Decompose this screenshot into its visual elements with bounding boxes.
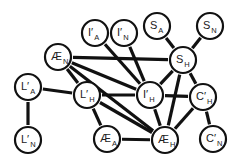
node-CpH: C′H: [190, 84, 216, 110]
node-SN: SN: [197, 13, 223, 39]
edge-LpA-LpH: [43, 89, 72, 93]
edge-IpH-AEH: [155, 109, 161, 126]
edge-IpH-SH: [160, 71, 172, 84]
node-CpN: C′N: [200, 126, 226, 152]
node-AEH: ÆH: [152, 127, 178, 153]
edge-SN-SH: [192, 38, 200, 49]
edge-AEN-SH: [73, 57, 168, 59]
node-AEA: ÆA: [94, 126, 120, 152]
edge-CpH-CpN: [206, 112, 209, 125]
node-IpN: I′N: [111, 20, 137, 46]
edge-SA-SH: [166, 38, 174, 48]
node-SH: SH: [170, 47, 196, 73]
node-LpA: L′A: [15, 74, 41, 100]
node-LpH: L′H: [74, 82, 100, 108]
node-AEN: ÆN: [45, 44, 71, 70]
node-LpN: L′N: [15, 127, 41, 153]
edge-SH-CpH: [190, 73, 196, 84]
node-IpH: I′H: [137, 82, 163, 108]
node-IpA: I′A: [82, 20, 108, 46]
edge-CpH-AEH: [175, 108, 193, 129]
node-graph-diagram: I′AI′NSASNÆNSHL′AL′HI′HC′HL′NÆAÆHC′N: [0, 0, 242, 162]
edge-SH-AEH: [168, 75, 179, 126]
edge-LpH-AEA: [93, 109, 101, 126]
node-SA: SA: [144, 13, 170, 39]
